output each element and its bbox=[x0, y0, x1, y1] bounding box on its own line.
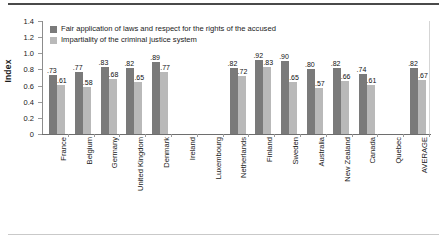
bar-group: .82.67 bbox=[404, 21, 430, 134]
x-axis-category-label: United Kingdom bbox=[137, 137, 145, 191]
bottom-divider-rule bbox=[8, 234, 439, 235]
bar-value-label: .90 bbox=[279, 53, 289, 60]
bar[interactable] bbox=[418, 80, 426, 134]
bar[interactable] bbox=[57, 85, 65, 134]
x-axis-category-label: Canada bbox=[369, 137, 377, 164]
bar-value-label: .82 bbox=[228, 60, 238, 67]
x-axis-category: Sweden bbox=[275, 137, 301, 211]
x-axis-category: Luxembourg bbox=[198, 137, 224, 211]
x-axis-category-label: Netherlands bbox=[240, 137, 248, 178]
bar-value-label: .61 bbox=[367, 77, 377, 84]
bar-value-label: .61 bbox=[57, 77, 67, 84]
bar-value-label: .57 bbox=[315, 80, 325, 87]
bar[interactable] bbox=[109, 79, 117, 134]
y-axis-tick-label: 0.4 bbox=[24, 97, 34, 106]
bar[interactable] bbox=[281, 61, 289, 134]
bar-group: .82.66 bbox=[327, 21, 353, 134]
top-divider-rule bbox=[8, 3, 439, 5]
bar-value-label: .82 bbox=[124, 60, 134, 67]
bar-group: .80.57 bbox=[301, 21, 327, 134]
y-axis-tick-label: 1.0 bbox=[24, 49, 34, 58]
x-axis-category: Australia bbox=[301, 137, 327, 211]
y-axis-labels: 1.41.21.00.80.60.40.20 bbox=[0, 21, 38, 134]
bar-value-label: .89 bbox=[150, 54, 160, 61]
x-axis-category: Canada bbox=[353, 137, 379, 211]
bar-value-label: .68 bbox=[109, 71, 119, 78]
chart-legend: Fair application of laws and respect for… bbox=[50, 24, 276, 46]
y-axis-tick-label: 1.2 bbox=[24, 33, 34, 42]
bar[interactable] bbox=[101, 67, 109, 134]
y-axis-tick-label: 0.6 bbox=[24, 81, 34, 90]
bar-value-label: .77 bbox=[73, 64, 83, 71]
x-axis-category-labels: FranceBelgiumGermanyUnited KingdomDenmar… bbox=[43, 137, 430, 211]
bar-value-label: .65 bbox=[134, 74, 144, 81]
bar[interactable] bbox=[289, 82, 297, 134]
bar-value-label: .66 bbox=[341, 73, 351, 80]
legend-swatch-series-2 bbox=[50, 37, 57, 44]
x-axis-category-label: Ireland bbox=[189, 137, 197, 160]
bar[interactable] bbox=[367, 85, 375, 134]
bar-value-label: .65 bbox=[289, 74, 299, 81]
bar[interactable] bbox=[238, 76, 246, 134]
bar-group: .90.65 bbox=[275, 21, 301, 134]
bar-value-label: .83 bbox=[99, 59, 109, 66]
x-axis-category: Belgium bbox=[69, 137, 95, 211]
y-axis-tick-label: 0.8 bbox=[24, 65, 34, 74]
y-axis-tick-label: 0 bbox=[30, 130, 34, 139]
bar[interactable] bbox=[255, 60, 263, 134]
bar[interactable] bbox=[134, 82, 142, 134]
x-axis-category: AVERAGE bbox=[404, 137, 430, 211]
bar-value-label: .83 bbox=[263, 59, 273, 66]
legend-label-series-2: Impartiality of the criminal justice sys… bbox=[61, 35, 197, 45]
bar[interactable] bbox=[160, 72, 168, 134]
x-axis-category-label: Denmark bbox=[163, 137, 171, 168]
legend-item-series-2[interactable]: Impartiality of the criminal justice sys… bbox=[50, 35, 276, 45]
bar-value-label: .82 bbox=[408, 60, 418, 67]
bar-value-label: .73 bbox=[47, 67, 57, 74]
x-axis-category-label: Finland bbox=[266, 137, 274, 162]
x-axis-category-label: Luxembourg bbox=[215, 137, 223, 179]
bar[interactable] bbox=[126, 68, 134, 134]
bar-value-label: .74 bbox=[357, 66, 367, 73]
x-axis-category: Finland bbox=[249, 137, 275, 211]
bar-group bbox=[378, 21, 404, 134]
x-axis-category-label: Australia bbox=[318, 137, 326, 167]
y-axis-tick-label: 0.2 bbox=[24, 113, 34, 122]
chart-figure: Index 1.41.21.00.80.60.40.20 .73.61.77.5… bbox=[0, 0, 447, 245]
bar-group: .74.61 bbox=[353, 21, 379, 134]
bar-value-label: .72 bbox=[238, 68, 248, 75]
bar[interactable] bbox=[341, 81, 349, 134]
bar[interactable] bbox=[263, 67, 271, 134]
bar[interactable] bbox=[410, 68, 418, 134]
bar[interactable] bbox=[49, 75, 57, 134]
x-axis-category-label: Germany bbox=[111, 137, 119, 168]
legend-item-series-1[interactable]: Fair application of laws and respect for… bbox=[50, 24, 276, 34]
x-axis-category: Denmark bbox=[146, 137, 172, 211]
x-axis-category: France bbox=[43, 137, 69, 211]
legend-swatch-series-1 bbox=[50, 26, 57, 33]
x-axis-category-label: France bbox=[60, 137, 68, 161]
bar[interactable] bbox=[152, 62, 160, 134]
bar-value-label: .92 bbox=[253, 52, 263, 59]
x-axis-category-label: Quebec bbox=[395, 137, 403, 164]
bar-value-label: .77 bbox=[160, 64, 170, 71]
bar[interactable] bbox=[230, 68, 238, 134]
bar-value-label: .58 bbox=[83, 79, 93, 86]
x-axis-category-label: Belgium bbox=[86, 137, 94, 164]
x-axis-category: Netherlands bbox=[224, 137, 250, 211]
bar[interactable] bbox=[75, 72, 83, 134]
x-axis-category-label: Sweden bbox=[292, 137, 300, 164]
x-axis-category: Ireland bbox=[172, 137, 198, 211]
bar-value-label: .67 bbox=[418, 72, 428, 79]
x-axis-category: United Kingdom bbox=[120, 137, 146, 211]
bar-value-label: .80 bbox=[305, 61, 315, 68]
y-axis-tick-label: 1.4 bbox=[24, 17, 34, 26]
bar[interactable] bbox=[83, 87, 91, 134]
x-axis-category: Germany bbox=[95, 137, 121, 211]
x-axis-category-label: New Zealand bbox=[344, 137, 352, 182]
bar[interactable] bbox=[307, 69, 315, 134]
bar-value-label: .82 bbox=[331, 60, 341, 67]
bar[interactable] bbox=[333, 68, 341, 134]
bar[interactable] bbox=[315, 88, 323, 134]
bar[interactable] bbox=[359, 74, 367, 134]
